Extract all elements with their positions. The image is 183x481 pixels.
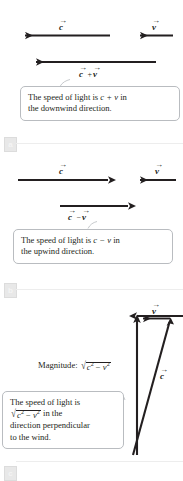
magnitude-radicand: c2 − v2 [86, 362, 111, 372]
callout-c-radical: √c2 − v2 [10, 409, 41, 420]
panel-divider-c [16, 461, 183, 462]
panel-badge-b: b [4, 283, 17, 298]
callout-panel-a: The speed of light is c + v in the downw… [20, 86, 180, 121]
callout-c-line-2: √c2 − v2 in the [10, 408, 117, 420]
callout-c-line-3: direction perpendicular [10, 420, 117, 431]
callout-panel-b: The speed of light is c − v in the upwin… [13, 229, 173, 264]
label-c-vector-b: → c [59, 163, 67, 176]
panel-divider-b [16, 289, 183, 290]
plus-operator: + [88, 71, 93, 79]
magnitude-label: Magnitude: [38, 360, 78, 370]
magnitude-radical: √ c2 − v2 [80, 361, 111, 372]
panel-divider-a [16, 143, 183, 144]
callout-b-line-1: The speed of light is c − v in [21, 235, 166, 246]
label-c-vector-a: → c [59, 19, 67, 32]
callout-panel-c: The speed of light is √c2 − v2 in the di… [2, 391, 124, 449]
label-v-vector-c: → v [152, 303, 160, 316]
callout-c-line-1: The speed of light is [10, 397, 117, 408]
magnitude-annotation: Magnitude: √ c2 − v2 [38, 360, 111, 372]
minus-operator: − [77, 214, 82, 222]
callout-b-line-2: the upwind direction. [21, 246, 166, 257]
callout-a-line-2: the downwind direction. [28, 103, 173, 114]
callout-c-radicand: c2 − v2 [16, 410, 41, 420]
panel-badge-c: c [4, 466, 17, 481]
label-resultant-b: → c − → v [68, 209, 90, 222]
label-resultant-a: → c + → v [79, 66, 101, 79]
physics-figure: → c → v → c + → v The speed of light is … [0, 0, 183, 481]
label-v-vector-b: → v [155, 163, 163, 176]
callout-a-line-1: The speed of light is c + v in [28, 92, 173, 103]
radical-sign-icon: √ [11, 409, 16, 418]
panel-badge-a: a [4, 137, 17, 152]
label-v-vector-a: → v [152, 19, 160, 32]
label-c-vector-c: → c [160, 368, 168, 381]
callout-c-line-4: to the wind. [10, 432, 117, 443]
radical-sign-icon: √ [81, 361, 86, 370]
